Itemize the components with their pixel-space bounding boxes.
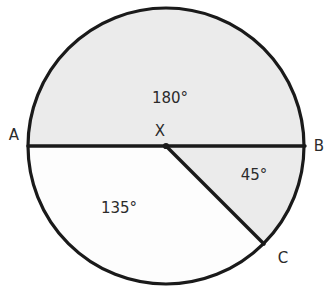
circle-diagram-svg: 180° 45° 135° A B X C xyxy=(0,0,334,291)
point-label-c: C xyxy=(278,249,288,267)
circle-diagram: 180° 45° 135° A B X C xyxy=(0,0,334,291)
point-label-a: A xyxy=(9,126,20,144)
center-point-marker xyxy=(163,143,169,149)
point-label-b: B xyxy=(314,137,324,155)
point-label-x: X xyxy=(155,122,165,140)
angle-label-45: 45° xyxy=(241,166,268,184)
angle-label-135: 135° xyxy=(101,199,137,217)
angle-label-180: 180° xyxy=(152,89,188,107)
